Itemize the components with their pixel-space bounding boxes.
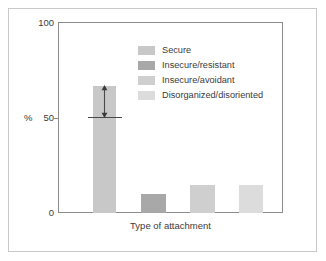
legend-item-insecure-avoidant: Insecure/avoidant — [138, 73, 263, 87]
y-axis: 100 50 0 % — [0, 0, 54, 261]
bar-disorganized-disoriented — [239, 185, 263, 213]
double-arrow-icon — [100, 85, 109, 118]
legend-item-label: Insecure/resistant — [162, 60, 235, 70]
legend-item-label: Insecure/avoidant — [162, 75, 235, 85]
range-arrow-annotation — [100, 85, 109, 118]
legend-item-label: Disorganized/disoriented — [162, 90, 263, 100]
legend-item-secure: Secure — [138, 43, 263, 57]
legend-item-label: Secure — [162, 45, 191, 55]
bar-insecure-resistant — [141, 194, 166, 213]
legend-swatch-icon — [138, 76, 155, 85]
legend-swatch-icon — [138, 46, 155, 55]
legend: Secure Insecure/resistant Insecure/avoid… — [138, 43, 263, 103]
bar-insecure-avoidant — [190, 185, 215, 213]
y-tick-label-100: 100 — [0, 18, 54, 28]
legend-item-disorganized-disoriented: Disorganized/disoriented — [138, 88, 263, 102]
legend-item-insecure-resistant: Insecure/resistant — [138, 58, 263, 72]
legend-swatch-icon — [138, 91, 155, 100]
y-axis-unit-label: % — [24, 113, 32, 123]
legend-swatch-icon — [138, 61, 155, 70]
x-axis-title: Type of attachment — [58, 220, 283, 231]
y-tick-label-0: 0 — [0, 208, 54, 218]
bar-chart-figure: 100 50 0 % Secure Insecure/res — [0, 0, 326, 261]
